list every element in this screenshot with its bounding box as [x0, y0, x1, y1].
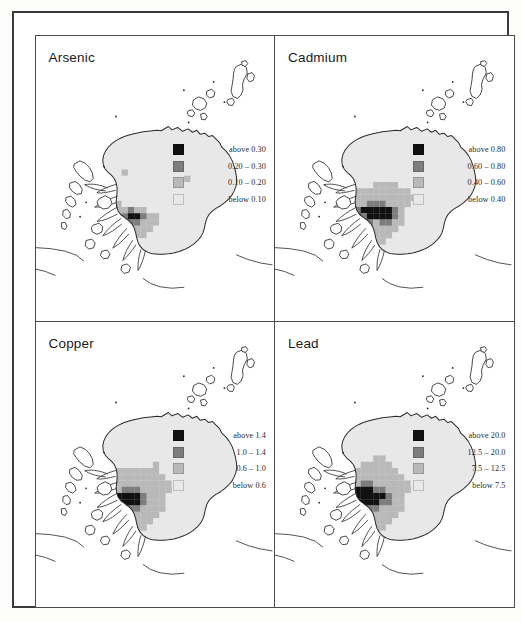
grid-cell: [127, 150, 133, 156]
legend-swatch-icon: [173, 463, 184, 474]
grid-cell: [404, 449, 410, 455]
grid-cell: [146, 225, 152, 231]
islet-dot: [318, 501, 320, 503]
grid-cell: [159, 213, 165, 219]
outer-hebrides-island: [305, 482, 315, 493]
grid-cell: [379, 131, 385, 137]
grid-cell: [109, 542, 115, 548]
shetland-island: [486, 358, 494, 367]
legend-label: above 1.4: [196, 431, 266, 440]
shetland-island: [246, 358, 254, 367]
grid-cell: [398, 417, 404, 423]
grid-cell: [342, 505, 348, 511]
grid-cell: [140, 474, 146, 480]
grid-cell: [140, 150, 146, 156]
grid-cell: [165, 424, 171, 430]
islet-dot: [354, 115, 356, 117]
grid-cell: [159, 480, 165, 486]
outer-hebrides-island: [302, 209, 310, 218]
grid-cell: [109, 455, 115, 461]
grid-cell: [146, 144, 152, 150]
grid-cell: [121, 219, 127, 225]
legend-label: above 20.0: [436, 431, 506, 440]
grid-cell: [392, 499, 398, 505]
grid-cell: [392, 417, 398, 423]
grid-cell: [121, 461, 127, 467]
grid-cell: [361, 524, 367, 530]
shetland-island: [466, 98, 474, 105]
orkney-island: [445, 89, 454, 98]
grid-cell: [354, 436, 360, 442]
grid-cell: [165, 188, 171, 194]
grid-cell: [342, 175, 348, 181]
grid-cell: [109, 169, 115, 175]
grid-cell: [102, 505, 108, 511]
grid-cell: [146, 181, 152, 187]
grid-cell: [398, 163, 404, 169]
neighbouring-coastline: [36, 269, 55, 275]
grid-cell: [379, 163, 385, 169]
grid-cell: [348, 244, 354, 250]
grid-cell: [386, 225, 392, 231]
grid-cell: [134, 424, 140, 430]
inner-hebrides-island: [120, 549, 130, 559]
panel-grid: Arsenicabove 0.300.20 – 0.300.10 – 0.20b…: [35, 35, 514, 607]
grid-cell: [121, 175, 127, 181]
sea-loch-coastline: [362, 526, 375, 546]
grid-cell: [361, 150, 367, 156]
neighbouring-coastline: [275, 269, 294, 275]
grid-cell: [336, 238, 342, 244]
grid-cell: [165, 467, 171, 473]
grid-cell: [386, 417, 392, 423]
grid-cell: [146, 430, 152, 436]
outer-hebrides-island: [308, 467, 321, 480]
outer-hebrides-island: [300, 508, 306, 515]
grid-cell: [109, 156, 115, 162]
grid-cell: [398, 181, 404, 187]
grid-cell: [361, 455, 367, 461]
grid-cell: [146, 194, 152, 200]
grid-cell: [115, 169, 121, 175]
outer-hebrides-island: [65, 196, 75, 207]
inner-hebrides-island: [360, 549, 370, 559]
grid-cell: [404, 430, 410, 436]
grid-cell: [367, 163, 373, 169]
grid-cell: [140, 156, 146, 162]
grid-cell: [134, 200, 140, 206]
sea-loch-coastline: [122, 526, 135, 546]
grid-cell: [134, 442, 140, 448]
grid-cell: [134, 486, 140, 492]
grid-cell: [127, 486, 133, 492]
sea-loch-coastline: [352, 228, 368, 248]
grid-cell: [152, 511, 158, 517]
grid-cell: [379, 436, 385, 442]
grid-cell: [146, 417, 152, 423]
grid-cell: [392, 169, 398, 175]
grid-cell: [134, 138, 140, 144]
grid-cell: [121, 225, 127, 231]
grid-cell: [152, 417, 158, 423]
sea-loch-coastline: [352, 514, 368, 534]
grid-cell: [386, 499, 392, 505]
grid-cell: [152, 181, 158, 187]
grid-cell: [392, 449, 398, 455]
grid-cell: [146, 206, 152, 212]
grid-cell: [348, 238, 354, 244]
inner-hebrides-island: [91, 223, 102, 234]
sea-loch-coastline: [102, 218, 121, 235]
grid-cell: [159, 169, 165, 175]
grid-cell: [392, 461, 398, 467]
grid-cell: [354, 150, 360, 156]
grid-cell: [398, 505, 404, 511]
grid-cell: [392, 150, 398, 156]
legend-label: 0.10 – 0.20: [196, 178, 266, 187]
grid-cell: [165, 449, 171, 455]
grid-cell: [392, 511, 398, 517]
grid-cell: [361, 467, 367, 473]
grid-cell: [379, 480, 385, 486]
grid-cell: [404, 474, 410, 480]
sea-loch-coastline: [122, 240, 135, 260]
grid-cell: [152, 467, 158, 473]
grid-cell: [134, 455, 140, 461]
inner-hebrides-island: [97, 195, 112, 208]
